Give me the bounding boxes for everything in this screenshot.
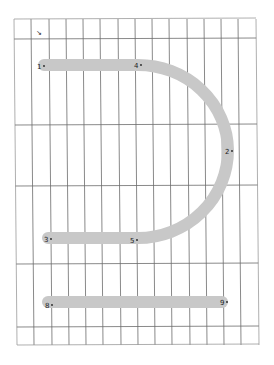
point-label: 3 [44,236,48,244]
point-label: 4 [134,62,139,70]
corner-mark-icon: ↘ [36,29,42,37]
grid-row-line [17,344,259,345]
grid-row-line [14,38,256,39]
point-label: 2 [225,148,229,156]
grid-column-line [238,19,241,345]
point-dot-icon [140,64,142,66]
point-label: 8 [45,302,49,310]
point-label: 9 [220,299,224,307]
glyph-grid-canvas: 1425389 ↘ [0,0,274,365]
point-dot-icon [51,304,53,306]
point-dot-icon [231,150,233,152]
point-dot-icon [50,238,52,240]
grid-column-line [256,19,259,345]
point-label: 1 [37,63,41,71]
grid-column-line [31,19,34,345]
grid-row-line [14,18,256,19]
point-dot-icon [226,301,228,303]
grid-column-line [14,19,17,345]
grid-row-line [17,326,259,327]
point-dot-icon [43,65,45,67]
point-label: 5 [130,237,134,245]
point-dot-icon [136,239,138,241]
grid-row-line [16,263,258,264]
